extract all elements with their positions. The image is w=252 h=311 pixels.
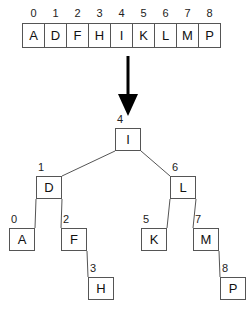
- tree-node: K: [141, 228, 167, 251]
- array-cell: A: [22, 23, 45, 48]
- tree-node: L: [170, 176, 196, 199]
- array-index-5: 5: [132, 7, 155, 19]
- sorted-array: ADFHIKLMP: [22, 23, 221, 48]
- tree-node: A: [9, 228, 35, 251]
- array-cell: I: [110, 23, 133, 48]
- tree-edge: [219, 251, 220, 277]
- node-index-label: 7: [195, 213, 201, 225]
- array-index-7: 7: [176, 7, 199, 19]
- array-index-0: 0: [22, 7, 45, 19]
- node-index-label: 6: [172, 161, 178, 173]
- tree-node: P: [220, 277, 246, 300]
- array-cell: K: [132, 23, 155, 48]
- array-cell: F: [66, 23, 89, 48]
- tree-node: H: [88, 277, 114, 300]
- array-index-4: 4: [110, 7, 133, 19]
- tree-node: M: [193, 228, 219, 251]
- array-cell: P: [198, 23, 221, 48]
- node-index-label: 5: [143, 213, 149, 225]
- binary-search-tree-diagram: 012345678 ADFHIKLMP 4I1D6L0A2F5K7M3H8P: [0, 0, 252, 311]
- tree-edge: [61, 199, 62, 228]
- array-cell: H: [88, 23, 111, 48]
- array-index-8: 8: [198, 7, 221, 19]
- tree-edge: [62, 151, 115, 176]
- tree-edge: [167, 199, 170, 228]
- array-cell: L: [154, 23, 177, 48]
- array-cell: D: [44, 23, 67, 48]
- node-index-label: 3: [90, 262, 96, 274]
- node-index-label: 0: [11, 213, 17, 225]
- tree-node: D: [36, 176, 62, 199]
- node-index-label: 8: [222, 262, 228, 274]
- array-index-6: 6: [154, 7, 177, 19]
- array-index-3: 3: [88, 7, 111, 19]
- tree-edge: [35, 199, 36, 228]
- tree-edge: [87, 251, 88, 277]
- down-arrow-icon: [112, 56, 144, 118]
- tree-node: I: [115, 128, 141, 151]
- array-cell: M: [176, 23, 199, 48]
- array-index-row: 012345678: [22, 7, 221, 19]
- tree-edge: [141, 151, 170, 176]
- array-index-1: 1: [44, 7, 67, 19]
- node-index-label: 4: [117, 113, 123, 125]
- node-index-label: 2: [63, 213, 69, 225]
- tree-node: F: [61, 228, 87, 251]
- node-index-label: 1: [38, 161, 44, 173]
- array-index-2: 2: [66, 7, 89, 19]
